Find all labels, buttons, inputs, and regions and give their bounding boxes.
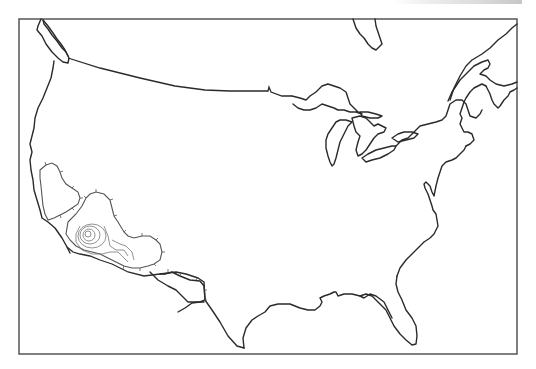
gulf-coast — [243, 292, 392, 348]
northern-border — [68, 58, 292, 96]
new-england-coast — [460, 84, 486, 146]
texas-border-loop — [160, 272, 205, 312]
lake-michigan — [326, 120, 352, 166]
southwest-contours — [40, 162, 207, 300]
lake-superior — [292, 84, 362, 114]
map-frame — [19, 19, 517, 354]
cropped-title-fragment — [392, 0, 522, 4]
nova-scotia — [486, 86, 517, 108]
us-outline-map — [0, 0, 536, 369]
map-figure — [0, 0, 536, 369]
east-coast — [397, 146, 466, 276]
vancouver-island — [37, 19, 69, 63]
west-coast — [30, 61, 70, 253]
lake-huron — [352, 116, 386, 156]
lake-ontario — [392, 132, 418, 142]
texas-big-bend — [150, 272, 204, 302]
hudson-bay-fragment — [353, 19, 382, 50]
